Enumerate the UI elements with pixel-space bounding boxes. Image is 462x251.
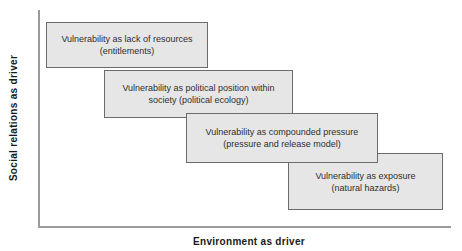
x-axis-label: Environment as driver bbox=[193, 236, 305, 247]
box-text-line: Vulnerability as compounded pressure bbox=[206, 126, 359, 138]
box-text-line: society (political ecology) bbox=[148, 94, 248, 106]
box-text-line: (pressure and release model) bbox=[223, 138, 341, 150]
box-text-line: Vulnerability as exposure bbox=[315, 170, 415, 182]
box-compounded-pressure: Vulnerability as compounded pressure (pr… bbox=[186, 113, 378, 163]
box-text-line: (entitlements) bbox=[100, 45, 155, 57]
y-axis-label: Social relations as driver bbox=[8, 55, 19, 181]
vulnerability-frameworks-diagram: Social relations as driver Environment a… bbox=[0, 0, 462, 251]
box-text-line: Vulnerability as political position with… bbox=[122, 82, 274, 94]
box-lack-of-resources: Vulnerability as lack of resources (enti… bbox=[46, 22, 208, 68]
box-political-position: Vulnerability as political position with… bbox=[104, 70, 293, 118]
box-text-line: (natural hazards) bbox=[331, 182, 399, 194]
box-text-line: Vulnerability as lack of resources bbox=[61, 33, 192, 45]
